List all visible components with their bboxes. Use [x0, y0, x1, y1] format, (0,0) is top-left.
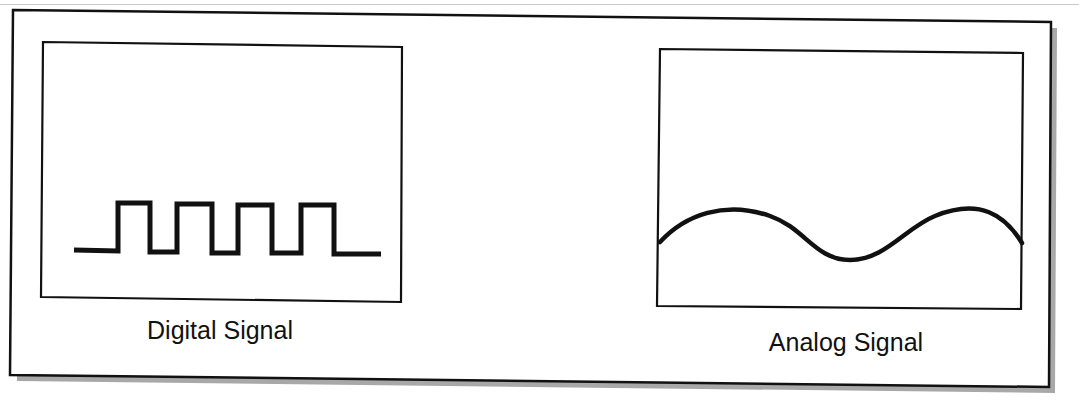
- analog-signal-label: Analog Signal: [769, 328, 923, 357]
- digital-signal-label: Digital Signal: [147, 316, 293, 345]
